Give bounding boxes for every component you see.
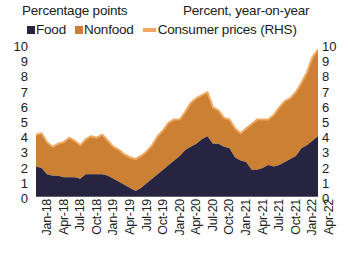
chart-container: Percentage points Percent, year-on-year … xyxy=(0,0,348,254)
x-axis-tick-label: Jan-22 xyxy=(305,199,319,235)
legend-item-food: Food xyxy=(27,22,66,37)
axis-tick-label: 1 xyxy=(322,176,338,191)
x-axis-labels: Jan-18Apr-18Jul-18Oct-18Jan-19Apr-19Jul-… xyxy=(36,199,318,254)
x-axis-tick-label: Oct-20 xyxy=(222,199,236,235)
axis-tick-label: 2 xyxy=(12,161,28,176)
x-axis-tick-label: Apr-22 xyxy=(322,199,336,235)
axis-tick-label: 10 xyxy=(12,39,28,54)
axis-tick-label: 4 xyxy=(322,130,338,145)
axis-tick-label: 6 xyxy=(322,100,338,115)
axis-tick-label: 4 xyxy=(12,130,28,145)
x-axis-tick-label: Oct-19 xyxy=(156,199,170,235)
axis-tick-label: 3 xyxy=(322,145,338,160)
legend-label-nonfood: Nonfood xyxy=(84,22,134,37)
axis-tick-label: 9 xyxy=(12,54,28,69)
x-axis-tick-label: Apr-20 xyxy=(189,199,203,235)
x-axis-tick-label: Apr-18 xyxy=(57,199,71,235)
axis-tick-label: 5 xyxy=(12,115,28,130)
x-axis-tick-label: Apr-19 xyxy=(123,199,137,235)
axis-tick-label: 5 xyxy=(322,115,338,130)
right-axis-title: Percent, year-on-year xyxy=(183,3,309,18)
left-axis-title: Percentage points xyxy=(22,3,127,18)
axis-tick-label: 8 xyxy=(12,69,28,84)
x-axis-tick-label: Jan-21 xyxy=(239,199,253,235)
plot-area xyxy=(36,45,318,197)
axis-tick-label: 10 xyxy=(322,39,338,54)
x-axis-tick-label: Jul-20 xyxy=(206,199,220,231)
x-axis-tick-label: Oct-21 xyxy=(289,199,303,235)
y-axis-right-ticks: 109876543210 xyxy=(322,39,338,206)
x-axis-tick-label: Jan-18 xyxy=(40,199,54,235)
legend-label-consumer-prices: Consumer prices (RHS) xyxy=(158,22,297,37)
x-axis-tick-label: Jul-19 xyxy=(140,199,154,231)
x-axis-tick-label: Oct-18 xyxy=(90,199,104,235)
axis-tick-label: 1 xyxy=(12,176,28,191)
axis-tick-label: 3 xyxy=(12,145,28,160)
legend-swatch-food-icon xyxy=(27,26,35,34)
axis-tick-label: 7 xyxy=(322,85,338,100)
legend-swatch-nonfood-icon xyxy=(75,26,83,34)
axis-tick-label: 6 xyxy=(12,100,28,115)
axis-tick-label: 7 xyxy=(12,85,28,100)
legend-label-food: Food xyxy=(36,22,66,37)
axis-tick-label: 9 xyxy=(322,54,338,69)
legend-item-nonfood: Nonfood xyxy=(75,22,134,37)
axis-tick-label: 0 xyxy=(12,191,28,206)
x-axis-tick-label: Apr-21 xyxy=(256,199,270,235)
legend-swatch-line-icon xyxy=(143,28,156,32)
x-axis-tick-label: Jul-21 xyxy=(272,199,286,231)
x-axis-tick-label: Jul-18 xyxy=(73,199,87,231)
axis-tick-label: 8 xyxy=(322,69,338,84)
x-axis-tick-label: Jan-19 xyxy=(106,199,120,235)
legend-item-consumer-prices: Consumer prices (RHS) xyxy=(143,22,297,37)
x-axis-tick-label: Jan-20 xyxy=(173,199,187,235)
axis-tick-label: 2 xyxy=(322,161,338,176)
y-axis-left-ticks: 109876543210 xyxy=(12,39,28,206)
chart-legend: Food Nonfood Consumer prices (RHS) xyxy=(27,22,297,37)
